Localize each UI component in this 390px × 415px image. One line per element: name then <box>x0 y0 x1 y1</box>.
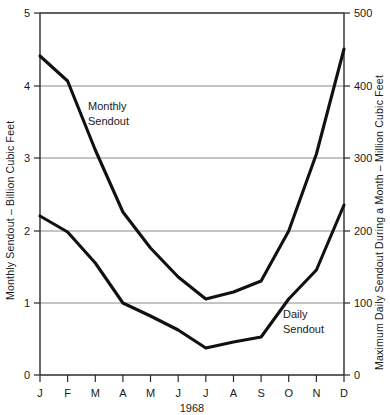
annotation-daily-line2: Sendout <box>283 323 324 335</box>
month-label-sep: S <box>257 387 264 399</box>
month-label-aug: A <box>230 387 238 399</box>
left-tick-label-4: 4 <box>24 80 30 92</box>
month-label-mar: M <box>91 387 100 399</box>
month-label-jan: J <box>37 387 43 399</box>
right-tick-label-0: 0 <box>354 369 360 381</box>
left-tick-label-3: 3 <box>24 152 30 164</box>
left-axis-title: Monthly Sendout – Billion Cubic Feet <box>4 121 16 300</box>
left-tick-label-2: 2 <box>24 225 30 237</box>
month-label-jul: J <box>203 387 209 399</box>
left-tick-label-1: 1 <box>24 297 30 309</box>
x-axis-year-label: 1968 <box>180 402 204 414</box>
month-label-nov: N <box>312 387 320 399</box>
right-tick-label-100: 100 <box>354 297 372 309</box>
chart-background <box>0 0 390 415</box>
annotation-monthly-line1: Monthly <box>88 100 127 112</box>
month-label-apr: A <box>119 387 127 399</box>
left-tick-label-0: 0 <box>24 369 30 381</box>
right-tick-label-500: 500 <box>354 7 372 19</box>
month-label-dec: D <box>340 387 348 399</box>
right-tick-label-200: 200 <box>354 225 372 237</box>
left-tick-label-5: 5 <box>24 7 30 19</box>
right-tick-label-300: 300 <box>354 152 372 164</box>
annotation-daily-line1: Daily <box>283 308 308 320</box>
chart-container: 5 4 3 2 1 0 500 400 300 200 100 0 J F M … <box>0 0 390 415</box>
right-axis-title: Maximum Daily Sendout During a Month – M… <box>373 75 385 370</box>
month-label-may: M <box>146 387 155 399</box>
annotation-monthly-line2: Sendout <box>88 115 129 127</box>
month-label-oct: O <box>284 387 293 399</box>
sendout-line-chart: 5 4 3 2 1 0 500 400 300 200 100 0 J F M … <box>0 0 390 415</box>
right-tick-label-400: 400 <box>354 80 372 92</box>
month-label-jun: J <box>175 387 181 399</box>
month-label-feb: F <box>64 387 71 399</box>
